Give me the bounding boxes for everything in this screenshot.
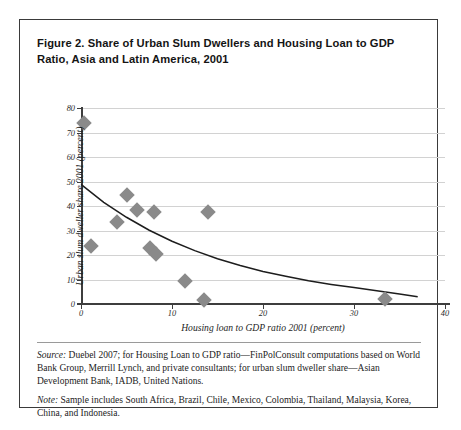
y-tick-label: 80 [67,104,75,113]
y-tick-label: 40 [67,202,75,211]
x-tick-label: 40 [441,309,449,318]
y-tick-mark [77,133,81,134]
source-note: Source: Duebel 2007; for Housing Loan to… [37,349,422,388]
x-tick-label: 10 [168,309,176,318]
x-axis-title: Housing loan to GDP ratio 2001 (percent) [181,322,345,333]
plot-area: Urban slum dweller share 2001 (percent) … [81,108,445,304]
divider [37,342,421,343]
sample-note: Note: Sample includes South Africa, Braz… [37,394,422,420]
x-tick-label: 20 [259,309,267,318]
y-tick-mark [77,255,81,256]
chart-canvas: Urban slum dweller share 2001 (percent) … [34,80,426,335]
x-tick-label: 30 [350,309,358,318]
y-tick-mark [77,280,81,281]
y-tick-label: 60 [67,153,75,162]
y-tick-label: 0 [71,300,75,309]
figure-title: Figure 2. Share of Urban Slum Dwellers a… [37,35,419,67]
y-tick-label: 30 [67,226,75,235]
y-tick-label: 20 [67,251,75,260]
y-tick-mark [77,231,81,232]
figure-container: Figure 2. Share of Urban Slum Dwellers a… [19,19,438,408]
y-tick-label: 10 [67,275,75,284]
source-label: Source: [37,350,66,360]
note-body: Sample includes South Africa, Brazil, Ch… [37,395,411,418]
trend-curve [81,184,418,296]
source-body: Duebel 2007; for Housing Loan to GDP rat… [37,350,420,386]
y-tick-mark [77,206,81,207]
y-tick-mark [77,182,81,183]
y-tick-mark [77,157,81,158]
x-tick-label: 0 [79,309,83,318]
y-tick-label: 70 [67,128,75,137]
y-tick-mark [77,108,81,109]
y-tick-label: 50 [67,177,75,186]
note-label: Note: [37,395,58,405]
